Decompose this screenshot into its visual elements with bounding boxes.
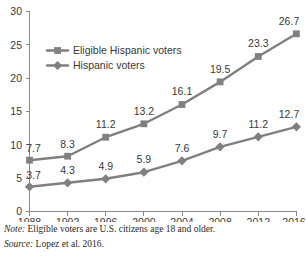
data-point-marker — [177, 156, 186, 165]
data-label: 12.7 — [279, 108, 300, 120]
source-line: Source: Lopez et al. 2016. — [4, 237, 304, 252]
data-label: 11.2 — [248, 118, 268, 130]
data-point-marker — [255, 53, 262, 60]
y-tick-label: 20 — [10, 72, 22, 84]
data-label: 13.2 — [134, 105, 155, 117]
line-chart-plot: 0 5 10 15 20 25 30 1988 1992 1996 2000 2… — [0, 0, 306, 222]
y-tick-marks — [26, 12, 30, 212]
data-point-marker — [63, 178, 72, 187]
data-point-marker — [254, 132, 263, 141]
y-tick-label: 15 — [10, 105, 22, 117]
source-label: Source: — [4, 239, 33, 249]
data-label: 5.9 — [137, 153, 152, 165]
y-tick-label: 10 — [10, 139, 22, 151]
note-text: Eligible voters are U.S. citizens age 18… — [25, 224, 215, 234]
legend-item-hispanic-voters: Hispanic voters — [47, 59, 145, 71]
legend-label: Eligible Hispanic voters — [73, 44, 182, 56]
data-point-marker — [26, 157, 33, 164]
chart-footnotes: Note: Eligible voters are U.S. citizens … — [4, 222, 304, 251]
data-point-marker — [217, 79, 224, 86]
data-label: 8.3 — [60, 138, 75, 150]
data-label: 9.7 — [213, 128, 228, 140]
legend-label: Hispanic voters — [73, 59, 145, 71]
data-point-marker — [102, 134, 109, 141]
data-label: 4.9 — [98, 160, 113, 172]
y-tick-label: 25 — [10, 39, 22, 51]
data-point-marker — [139, 168, 148, 177]
legend-diamond-marker-icon — [53, 61, 62, 70]
legend-item-eligible-hispanic-voters: Eligible Hispanic voters — [47, 44, 182, 56]
legend-square-marker-icon — [54, 47, 61, 54]
y-tick-label: 30 — [10, 5, 22, 17]
data-point-marker — [293, 30, 300, 37]
note-label: Note: — [4, 224, 25, 234]
data-point-marker — [141, 120, 148, 127]
y-tick-label: 5 — [16, 172, 22, 184]
data-point-marker — [101, 174, 110, 183]
data-label: 26.7 — [279, 15, 300, 27]
data-point-marker — [216, 142, 225, 151]
data-label: 23.3 — [248, 37, 269, 49]
data-point-marker — [25, 182, 34, 191]
data-label: 4.3 — [60, 164, 75, 176]
source-text: Lopez et al. 2016. — [33, 239, 104, 249]
data-label: 11.2 — [96, 118, 116, 130]
y-axis-labels: 0 5 10 15 20 25 30 — [10, 5, 22, 217]
data-label: 19.5 — [210, 63, 231, 75]
data-point-marker — [64, 153, 71, 160]
chart-legend: Eligible Hispanic voters Hispanic voters — [47, 44, 182, 71]
chart-figure: 0 5 10 15 20 25 30 1988 1992 1996 2000 2… — [0, 0, 306, 260]
data-label: 7.6 — [175, 142, 190, 154]
data-point-marker — [292, 122, 301, 131]
data-point-marker — [179, 101, 186, 108]
data-label: 3.7 — [26, 169, 41, 181]
data-label: 7.7 — [26, 142, 41, 154]
note-line: Note: Eligible voters are U.S. citizens … — [4, 222, 304, 237]
data-label: 16.1 — [172, 85, 193, 97]
